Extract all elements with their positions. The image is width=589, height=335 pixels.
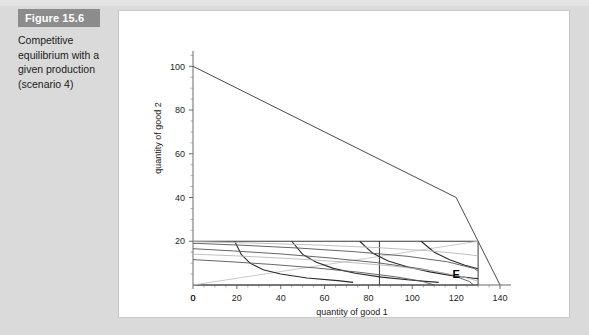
series-production-possibility-frontier — [193, 66, 500, 285]
annotation-E: E — [453, 268, 460, 280]
series-consumer-A-indifference-curve-3 — [360, 241, 478, 278]
y-tick-label: 60 — [175, 149, 185, 159]
figure-page: Figure 15.6 Competitive equilibrium with… — [0, 0, 589, 335]
origin-tick-label: 0 — [190, 293, 195, 303]
figure-caption-block: Figure 15.6 Competitive equilibrium with… — [18, 8, 112, 91]
x-tick-label: 140 — [493, 293, 508, 303]
economics-chart: 020406080100120140204060801000 quantity … — [119, 11, 569, 317]
x-tick-label: 120 — [449, 293, 464, 303]
y-tick-label: 20 — [175, 236, 185, 246]
y-axis-title: quantity of good 2 — [153, 102, 163, 174]
y-tick-label: 100 — [170, 62, 185, 72]
chart-series — [193, 66, 500, 285]
series-equilibrium-price-line — [193, 241, 478, 285]
figure-caption-text: Competitive equilibrium with a given pro… — [18, 33, 112, 91]
x-axis-title: quantity of good 1 — [316, 307, 388, 317]
x-tick-label: 20 — [232, 293, 242, 303]
y-tick-label: 40 — [175, 193, 185, 203]
x-tick-label: 60 — [320, 293, 330, 303]
x-tick-label: 40 — [276, 293, 286, 303]
x-tick-label: 80 — [363, 293, 373, 303]
figure-number-banner: Figure 15.6 — [18, 9, 100, 27]
chart-panel: 020406080100120140204060801000 quantity … — [118, 10, 570, 318]
y-tick-label: 80 — [175, 105, 185, 115]
x-tick-label: 100 — [405, 293, 420, 303]
series-consumer-B-indifference-curve-1 — [193, 249, 474, 285]
